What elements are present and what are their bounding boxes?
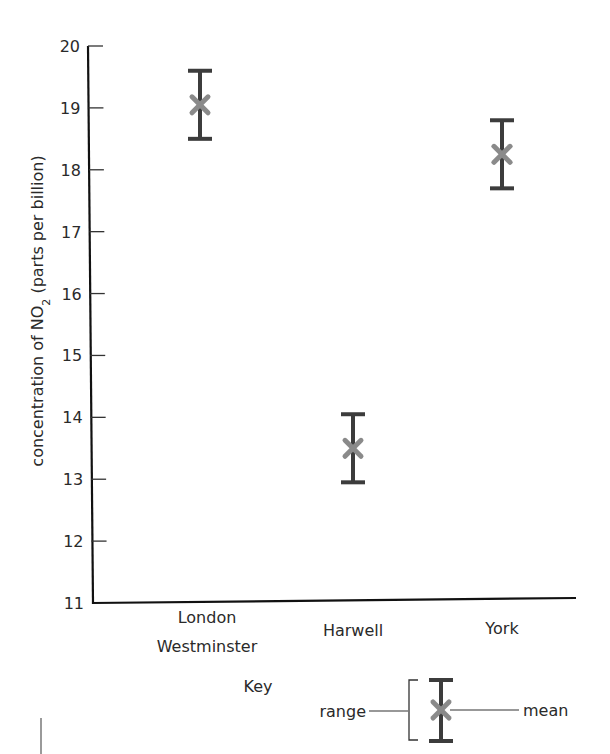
y-tick-label: 17 — [61, 223, 81, 242]
y-tick-label: 12 — [63, 532, 83, 551]
y-tick-label: 18 — [61, 161, 81, 180]
x-axis-line — [92, 598, 576, 603]
legend-range-bracket — [409, 680, 418, 740]
chart-figure: 11121314151617181920concentration of NO2… — [0, 0, 610, 754]
x-category-label: Westminster — [157, 637, 258, 656]
y-tick-label: 11 — [64, 594, 84, 613]
y-tick-label: 20 — [60, 37, 80, 56]
x-category-label: Harwell — [323, 621, 383, 640]
y-tick-label: 13 — [63, 470, 83, 489]
legend-title: Key — [243, 677, 272, 696]
chart-canvas: 11121314151617181920concentration of NO2… — [0, 0, 610, 754]
y-tick-label: 16 — [61, 285, 81, 304]
x-category-label: York — [484, 619, 519, 638]
legend-range-label: range — [319, 702, 366, 721]
y-tick-label: 14 — [62, 408, 82, 427]
legend-mean-label: mean — [523, 701, 568, 720]
y-tick-label: 15 — [62, 346, 82, 365]
y-axis-label: concentration of NO2 (parts per billion) — [28, 155, 53, 466]
x-category-label: London — [178, 608, 237, 627]
y-tick-label: 19 — [60, 99, 80, 118]
y-axis-line — [88, 46, 93, 604]
